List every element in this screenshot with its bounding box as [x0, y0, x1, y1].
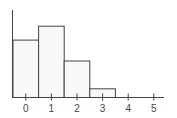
bars-group — [13, 26, 115, 97]
x-tick-label-3: 3 — [100, 103, 106, 114]
x-tick-label-2: 2 — [74, 103, 80, 114]
bar-1 — [39, 26, 65, 97]
x-tick-label-4: 4 — [125, 103, 131, 114]
bar-0 — [13, 40, 39, 97]
bar-2 — [64, 61, 90, 98]
x-tick-label-1: 1 — [49, 103, 55, 114]
histogram-chart: 012345 — [0, 0, 177, 118]
x-tick-label-0: 0 — [23, 103, 29, 114]
x-tick-label-5: 5 — [151, 103, 157, 114]
